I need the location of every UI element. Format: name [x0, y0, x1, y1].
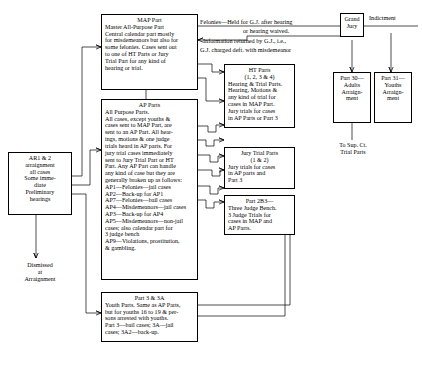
arraignment-text: AR1 & 2 arraignment all cases Some imme-… — [12, 155, 68, 203]
part31-text: Part 31— Youths Arraign- ment — [378, 75, 408, 102]
part30-text: Part 30— Adults Arraign- ment — [337, 75, 367, 102]
edge-label-information: Information returned by G.J., i.e., — [203, 37, 286, 44]
grand-jury-box[interactable]: Grand Jury — [340, 13, 364, 37]
ht-parts-body: Hearing & Trial Parts. Hearing, Motions … — [228, 81, 291, 122]
edge-label-felonies-2: or hearing waived. — [243, 27, 289, 34]
map-part-title: MAP Part — [105, 17, 194, 24]
arraignment-box[interactable]: AR1 & 2 arraignment all cases Some imme-… — [8, 152, 72, 215]
part30-box[interactable]: Part 30— Adults Arraign- ment — [333, 72, 371, 123]
jury-trial-subtitle: (1 & 2) — [228, 157, 291, 164]
part31-box[interactable]: Part 31— Youths Arraign- ment — [374, 72, 412, 123]
edge-label-information-2: G.J. charged deft. with misdemeanor — [200, 46, 291, 53]
map-part-box[interactable]: MAP Part Master All-Purpose Part Central… — [101, 14, 198, 90]
sup-ct-label: To Sup. Ct. Trial Parts — [326, 142, 380, 156]
ht-parts-title: HT Parts — [228, 67, 291, 74]
part3-title: Part 3 & 3A — [105, 295, 194, 302]
ap-parts-box[interactable]: AP Parts All Purpose Parts. All cases, e… — [101, 99, 198, 280]
grand-jury-text: Grand Jury — [344, 16, 360, 30]
edge-label-felonies: Felonies—Held for G.J. after hearing — [200, 18, 292, 25]
jury-trial-title: Jury Trial Parts — [228, 150, 291, 157]
flowchart-canvas: AR1 & 2 arraignment all cases Some imme-… — [0, 0, 422, 369]
part3-box[interactable]: Part 3 & 3A Youth Parts. Same as AP Part… — [101, 292, 198, 342]
ap-parts-title: AP Parts — [105, 102, 194, 109]
jury-trial-body: Jury trials for cases in AP parts and Pa… — [228, 164, 291, 184]
dismissed-text: Dismissed at Arraignment — [5, 262, 75, 283]
sup-ct-text: To Sup. Ct. Trial Parts — [326, 142, 380, 156]
part2b3-box[interactable]: Part 2B3— Three Judge Bench. 3 Judge Tri… — [224, 195, 295, 235]
part2b3-body: Three Judge Bench. 3 Judge Trials for ca… — [228, 205, 291, 232]
map-part-body: Master All-Purpose Part Central calendar… — [105, 24, 194, 72]
ap-parts-body: All Purpose Parts. All cases, except you… — [105, 109, 194, 252]
part2b3-title: Part 2B3— — [228, 198, 291, 205]
edge-label-indictment: Indictment — [369, 14, 396, 21]
dismissed-label: Dismissed at Arraignment — [5, 262, 75, 283]
ht-parts-subtitle: (1, 2, 3 & 4) — [228, 74, 291, 81]
ht-parts-box[interactable]: HT Parts (1, 2, 3 & 4) Hearing & Trial P… — [224, 64, 295, 128]
jury-trial-parts-box[interactable]: Jury Trial Parts (1 & 2) Jury trials for… — [224, 147, 295, 189]
part3-body: Youth Parts. Same as AP Parts, but for y… — [105, 302, 194, 336]
